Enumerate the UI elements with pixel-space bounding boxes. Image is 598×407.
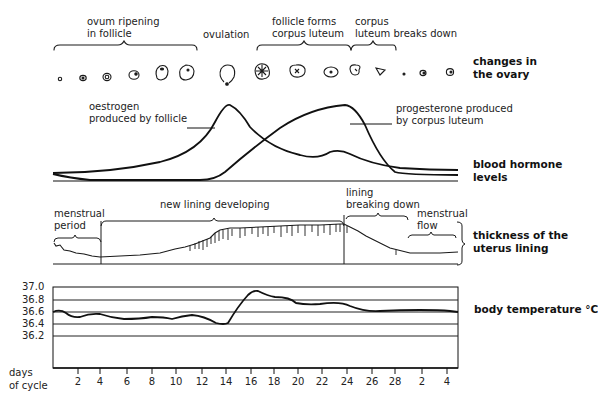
brace-corpus-luteum-forms	[257, 41, 351, 50]
brace-ovum-ripening	[54, 41, 197, 50]
label-line: progesterone produced	[396, 103, 513, 115]
label-lining-breaking-down: lining breaking down	[346, 187, 420, 211]
label-line: breaking down	[346, 199, 420, 211]
brace-corpus-breakdown	[351, 41, 396, 50]
brace-menstrual-flow	[408, 232, 456, 238]
label-line: by corpus luteum	[396, 115, 513, 127]
label-line: the ovary	[473, 68, 537, 81]
label-line: luteum breaks down	[355, 28, 457, 40]
x-tick-label: 2	[419, 376, 425, 387]
label-line: period	[54, 220, 105, 232]
x-tick-label: 28	[389, 376, 402, 387]
label-oestrogen: oestrogen produced by follicle	[89, 101, 187, 125]
label-line: follicle forms	[272, 16, 344, 28]
label-menstrual-flow: menstrual flow	[417, 208, 468, 232]
x-tick-label: 6	[124, 376, 130, 387]
y-tick-label: 37.0	[22, 281, 44, 292]
label-ovum-ripening: ovum ripening in follicle	[87, 16, 160, 40]
x-tick-label: 18	[268, 376, 281, 387]
row-label-uterus: thickness of the uterus lining	[473, 229, 568, 255]
brace-lining-breaking	[346, 213, 408, 220]
x-tick-label: 4	[444, 376, 450, 387]
label-line: ovum ripening	[87, 16, 160, 28]
uterus-lining-curve	[54, 224, 458, 257]
label-line: menstrual	[54, 208, 105, 220]
y-tick-label: 36.2	[22, 330, 44, 341]
label-corpus-luteum-breaks-down: corpus luteum breaks down	[355, 16, 457, 40]
label-line: of cycle	[9, 379, 48, 392]
temperature-curve	[53, 291, 458, 324]
label-line: changes in	[473, 55, 537, 68]
y-tick-label: 36.4	[22, 318, 44, 329]
label-line: flow	[417, 220, 468, 232]
label-line: uterus lining	[473, 242, 568, 255]
ovary-follicle-icons	[58, 64, 453, 85]
x-tick-label: 14	[220, 376, 233, 387]
x-tick-label: 24	[341, 376, 354, 387]
label-progesterone: progesterone produced by corpus luteum	[396, 103, 513, 127]
label-menstrual-period: menstrual period	[54, 208, 105, 232]
brace-menstrual-period	[54, 235, 101, 242]
row-label-ovary: changes in the ovary	[473, 55, 537, 81]
label-ovulation: ovulation	[203, 29, 249, 41]
label-line: produced by follicle	[89, 113, 187, 125]
y-tick-label: 36.6	[22, 306, 44, 317]
x-tick-label: 12	[196, 376, 209, 387]
label-line: lining	[346, 187, 420, 199]
label-line: blood hormone	[473, 158, 562, 171]
label-line: oestrogen	[89, 101, 187, 113]
x-tick-label: 8	[149, 376, 155, 387]
x-tick-label: 10	[170, 376, 183, 387]
label-line: days	[9, 366, 48, 379]
x-tick-label: 2	[75, 376, 81, 387]
x-tick-label: 4	[97, 376, 103, 387]
x-tick-label: 20	[292, 376, 305, 387]
label-line: in follicle	[87, 28, 160, 40]
label-line: levels	[473, 171, 562, 184]
x-tick-label: 16	[245, 376, 258, 387]
label-line: corpus luteum	[272, 28, 344, 40]
label-line: menstrual	[417, 208, 468, 220]
label-new-lining-developing: new lining developing	[160, 199, 270, 211]
label-line: corpus	[355, 16, 457, 28]
y-tick-label: 36.8	[22, 294, 44, 305]
x-tick-label: 26	[366, 376, 379, 387]
x-axis-label: days of cycle	[9, 366, 48, 392]
label-line: thickness of the	[473, 229, 568, 242]
temperature-chart	[53, 287, 458, 374]
x-tick-label: 22	[316, 376, 329, 387]
row-label-temperature: body temperature °C	[474, 303, 598, 316]
label-follicle-forms-corpus-luteum: follicle forms corpus luteum	[272, 16, 344, 40]
row-label-hormones: blood hormone levels	[473, 158, 562, 184]
